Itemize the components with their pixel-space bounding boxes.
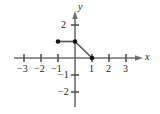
x-tick-label-pos1: 1 [89,64,94,74]
x-tick-label-pos2: 2 [106,64,111,74]
x-tick-label-neg3: −3 [17,64,28,74]
segment-diagonal [75,42,92,59]
y-tick-label-neg1: −1 [58,70,69,80]
y-tick-label-pos2: 2 [61,20,66,30]
graph-figure: −3 −2 −1 1 2 3 2 −1 −2 x y [0,0,160,114]
x-axis-arrow-icon [135,55,143,61]
coordinate-plot [0,0,160,114]
point-marker-right [90,56,95,61]
x-tick-label-pos3: 3 [123,64,128,74]
point-marker-vertex [73,39,78,44]
point-marker-left [56,39,61,44]
y-tick-label-neg2: −2 [58,87,69,97]
x-tick-label-neg2: −2 [34,64,45,74]
y-axis-arrow-icon [72,11,78,19]
y-axis-label: y [78,2,82,12]
x-axis-label: x [145,52,149,62]
